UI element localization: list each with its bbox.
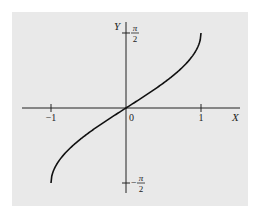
y-tick-denominator: 2: [133, 34, 138, 44]
x-axis-label: X: [231, 111, 240, 123]
x-tick-label: −1: [46, 112, 57, 123]
y-tick-denominator: 2: [139, 184, 144, 194]
y-tick-sign: −: [131, 177, 137, 188]
x-tick-label: 0: [129, 112, 134, 123]
y-tick-numerator: π: [133, 23, 138, 33]
arcsin-plot: −101π2−π2 X Y: [0, 0, 257, 213]
x-tick-label: 1: [199, 112, 204, 123]
y-axis-label: Y: [114, 20, 122, 32]
y-tick-numerator: π: [139, 173, 144, 183]
